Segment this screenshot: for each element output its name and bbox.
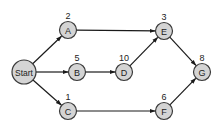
edge-start-to-c bbox=[33, 80, 61, 105]
node-weight: 3 bbox=[161, 12, 166, 22]
network-diagram: StartA2B5C1D10E3F6G8 bbox=[0, 0, 219, 128]
edge-d-to-e bbox=[130, 37, 158, 66]
node-d: D10 bbox=[116, 53, 133, 81]
node-label: C bbox=[65, 107, 72, 117]
node-label: F bbox=[161, 107, 167, 117]
edge-f-to-g bbox=[170, 78, 196, 105]
edges-layer bbox=[33, 30, 196, 111]
edge-e-to-g bbox=[170, 37, 196, 65]
node-label: B bbox=[74, 68, 80, 78]
node-start: Start bbox=[12, 60, 36, 84]
node-f: F6 bbox=[156, 92, 173, 120]
edge-start-to-a bbox=[33, 36, 62, 64]
node-b: B5 bbox=[69, 53, 86, 81]
node-weight: 10 bbox=[119, 53, 129, 63]
edge-a-to-e bbox=[77, 30, 156, 31]
node-weight: 8 bbox=[199, 53, 204, 63]
node-e: E3 bbox=[156, 12, 173, 40]
node-weight: 1 bbox=[65, 92, 70, 102]
node-label: G bbox=[198, 68, 205, 78]
node-label: A bbox=[65, 26, 71, 36]
node-weight: 5 bbox=[74, 53, 79, 63]
node-c: C1 bbox=[60, 92, 77, 120]
node-label: D bbox=[121, 68, 128, 78]
node-g: G8 bbox=[194, 53, 211, 81]
node-a: A2 bbox=[60, 11, 77, 39]
nodes-layer: StartA2B5C1D10E3F6G8 bbox=[12, 11, 211, 120]
node-weight: 6 bbox=[161, 92, 166, 102]
node-label: Start bbox=[15, 68, 34, 78]
node-weight: 2 bbox=[65, 11, 70, 21]
node-label: E bbox=[161, 27, 167, 37]
